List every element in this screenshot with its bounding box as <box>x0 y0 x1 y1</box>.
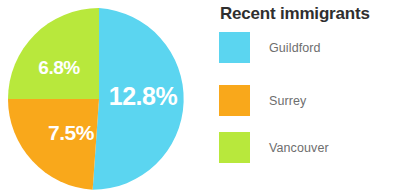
pie-slice-vancouver[interactable] <box>8 8 99 99</box>
legend-swatch-guildford <box>219 32 250 63</box>
legend-swatch-vancouver <box>219 132 250 163</box>
chart-legend: Recent immigrants Guildford Surrey Vanco… <box>219 0 395 196</box>
legend-swatch-surrey <box>219 85 250 116</box>
legend-label-surrey: Surrey <box>269 94 306 108</box>
legend-label-guildford: Guildford <box>269 41 321 55</box>
pie-slice-label-guildford: 12.8% <box>109 84 177 109</box>
pie-slice-surrey[interactable] <box>8 99 99 190</box>
pie-chart-figure: 12.8% 7.5% 6.8% Recent immigrants Guildf… <box>0 0 395 196</box>
legend-item-vancouver[interactable]: Vancouver <box>219 132 329 163</box>
pie-slice-label-vancouver: 6.8% <box>38 58 79 77</box>
pie-slice-label-surrey: 7.5% <box>48 122 94 143</box>
legend-item-guildford[interactable]: Guildford <box>219 32 321 63</box>
chart-title: Recent immigrants <box>220 4 370 24</box>
legend-item-surrey[interactable]: Surrey <box>219 85 306 116</box>
legend-label-vancouver: Vancouver <box>269 141 329 155</box>
pie-chart-plot: 12.8% 7.5% 6.8% <box>0 0 200 196</box>
